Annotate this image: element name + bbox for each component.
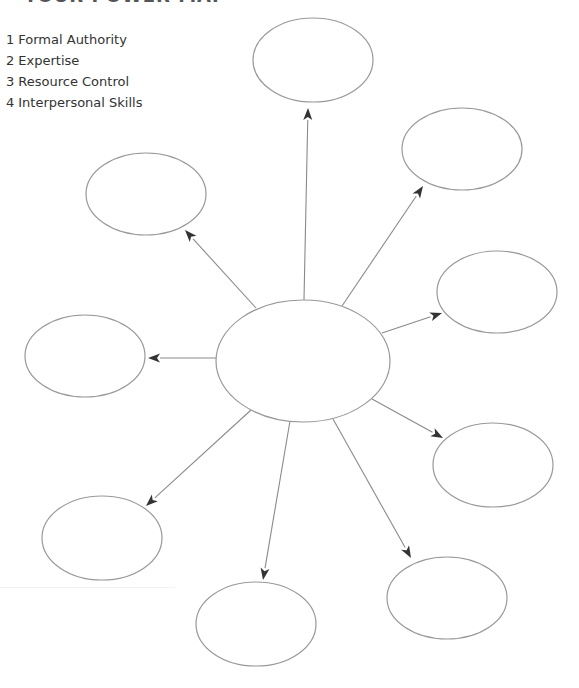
node-right [437, 251, 557, 333]
arrowhead-icon [303, 108, 312, 120]
arrow-to-top-line [304, 120, 308, 300]
arrow-to-lower-right-line [372, 399, 432, 432]
node-bottom-right [387, 557, 507, 639]
node-upper-left [86, 153, 206, 235]
arrow-to-bottom-right-line [333, 419, 405, 548]
node-bottom-left [42, 496, 162, 580]
nodes-group [25, 18, 557, 666]
arrow-to-bottom-line [265, 421, 290, 568]
arrowhead-icon [429, 313, 442, 322]
arrowhead-icon [430, 428, 443, 438]
node-top-right [402, 108, 522, 190]
node-top [253, 18, 373, 102]
arrow-to-bottom-left-line [155, 410, 251, 498]
node-lower-right [433, 423, 553, 507]
central-node [216, 300, 390, 422]
node-left [25, 315, 145, 397]
arrowhead-icon [261, 567, 270, 580]
arrowhead-icon [413, 186, 423, 198]
hub-spoke-diagram [0, 0, 579, 688]
arrow-to-upper-left-line [193, 239, 256, 308]
arrow-to-right-line [382, 317, 431, 333]
arrowhead-icon [401, 545, 411, 558]
arrow-to-top-right-line [342, 196, 416, 306]
node-bottom [196, 582, 316, 666]
arrowhead-icon [148, 354, 160, 363]
